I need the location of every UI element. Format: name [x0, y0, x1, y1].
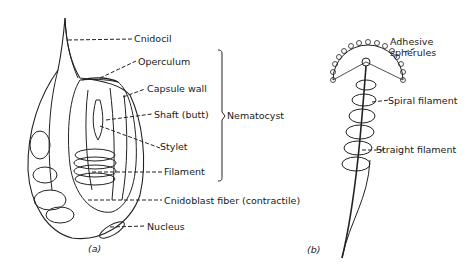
label-nucleus: Nucleus [147, 221, 185, 232]
label-spherules: spherules [390, 47, 436, 58]
label-adhesive: Adhesive [390, 36, 433, 47]
label-stylet: Stylet [160, 141, 188, 152]
label-spiral-filament: Spiral filament [388, 95, 457, 106]
label-cnidocil: Cnidocil [134, 33, 172, 44]
leader-lines-a [68, 39, 162, 227]
label-nematocyst: Nematocyst [227, 110, 284, 121]
label-shaft: Shaft (butt) [154, 109, 209, 120]
label-capsule-wall: Capsule wall [147, 83, 207, 94]
caption-b: (b) [307, 244, 320, 255]
label-filament: Filament [164, 166, 205, 177]
label-cnidoblast-fiber: Cnidoblast fiber (contractile) [164, 195, 300, 206]
caption-a: (a) [88, 243, 101, 254]
nematocyst-bracket [218, 50, 225, 181]
label-operculum: Operculum [138, 56, 190, 67]
cnidoblast-illustration [28, 18, 144, 241]
label-straight-filament: Straight filament [376, 144, 456, 155]
